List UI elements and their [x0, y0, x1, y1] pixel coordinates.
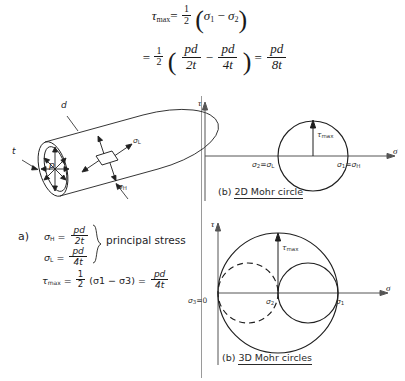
zero-value: 0 [203, 296, 208, 305]
fraction-pd-over-8t: pd 8t [267, 42, 286, 73]
figure-page: τmax= 1 2 (σ1 − σ2) = 1 2 ( pd 2t − pd 4 [0, 0, 405, 381]
fraction-denominator: 2 [154, 57, 163, 68]
curly-brace-icon [91, 224, 103, 264]
fraction-denominator: 2 [76, 280, 85, 289]
cylinder-bottom-edge [60, 169, 158, 196]
tau-axis [202, 102, 207, 201]
fraction-denominator: 4t [151, 280, 168, 290]
vessel-pressure-label: p [49, 160, 55, 170]
fraction-numerator: 1 [182, 4, 191, 16]
sigma-H-subscript: H [356, 163, 360, 169]
sigma-H-arrows [98, 136, 116, 181]
point-label-sigma1-sigmaH: σ1=σH [337, 160, 360, 169]
sigma-axis-label: σ [393, 146, 397, 156]
tau-max-subscript: max [287, 246, 299, 252]
pressure-vessel-sketch: d t p σL σH [8, 98, 198, 210]
tau-max-arrow [310, 120, 315, 156]
close-paren-2: ) [243, 48, 252, 77]
equals-sign-2: = [143, 50, 150, 65]
part-label-a: a) [18, 230, 29, 243]
handwritten-notes: a) σH = pd 2t σL = pd 4t principal stres… [18, 212, 198, 292]
equals-sign: = [56, 252, 64, 263]
chart-3d-mohr-circles: τ σ σ3=0 σ2 σ1 τmax (b) 3D Mohr circles [196, 215, 402, 379]
equals-sign: = [170, 8, 177, 23]
sigma-L-subscript: L [50, 256, 53, 263]
fraction-numerator: pd [69, 246, 86, 257]
annotation-tau-max-3d: τmax [282, 243, 299, 252]
point-label-sigma2-sigmaL: σ2=σL [252, 160, 274, 169]
equals-sign: = [58, 231, 66, 242]
equals-sign-2: = [138, 275, 146, 286]
sigma-L-subscript: L [271, 163, 274, 169]
sigma-difference-expression: (σ1 − σ3) [89, 275, 135, 286]
chart-2d-mohr-circle: τ σ σ2=σL σ1=σH τmax (b) 2D Mohr circle [196, 98, 402, 210]
caption-prefix: (b) [218, 186, 231, 197]
caption-2d-mohr-circle: (b) 2D Mohr circle [218, 186, 303, 197]
vessel-sigma-H-label: σH [118, 182, 127, 191]
open-paren: ( [195, 6, 204, 35]
equals-sign-3: = [255, 50, 262, 65]
note-sigma-L-equation: σL = pd 4t [44, 246, 89, 268]
fraction-pd-over-4t-2: pd 4t [151, 269, 168, 291]
sigma-axis [218, 290, 388, 295]
stress-element [96, 151, 118, 165]
close-paren: ) [238, 6, 247, 35]
principal-stress-label: principal stress [106, 234, 186, 246]
equation-block: τmax= 1 2 (σ1 − σ2) = 1 2 ( pd 2t − pd 4 [0, 4, 405, 77]
sigma-L-arrows [82, 144, 132, 172]
internal-pressure-arrows [41, 147, 69, 191]
caption-text: 2D Mohr circle [234, 186, 303, 199]
note-sigma-H-equation: σH = pd 2t [44, 225, 90, 247]
point-label-sigma2: σ2 [266, 297, 274, 306]
caption-prefix: (b) [222, 352, 235, 363]
sigma-axis-label: σ [386, 283, 390, 293]
sigma-H-subscript: H [123, 185, 127, 191]
caption-3d-mohr-circles: (b) 3D Mohr circles [222, 352, 312, 363]
sigma-L-subscript: L [138, 139, 141, 145]
tau-axis-label: τ [211, 219, 214, 229]
one-half-fraction: 1 2 [76, 270, 85, 289]
fraction-denominator: 2 [182, 16, 191, 27]
fraction-pd-over-4t: pd 4t [69, 246, 86, 268]
point-label-sigma3-zero: σ3=0 [188, 296, 207, 305]
tau-axis-label: τ [198, 98, 201, 108]
fraction-pd-over-4t: pd 4t [218, 42, 237, 73]
fraction-numerator: pd [71, 225, 88, 236]
vessel-diameter-label: d [61, 100, 67, 110]
annotation-tau-max-2d: τmax [317, 130, 334, 139]
fraction-pd-over-2t: pd 2t [71, 225, 88, 247]
fraction-numerator: pd [182, 42, 201, 58]
equals-sign: = [64, 275, 72, 286]
diameter-leader-line [67, 116, 78, 131]
minus-sign: − [217, 8, 224, 23]
fraction-denominator: 2t [182, 58, 201, 73]
caption-text: 3D Mohr circles [238, 352, 312, 365]
point-label-sigma1: σ1 [336, 297, 344, 306]
tau-subscript: max [157, 15, 171, 24]
vessel-sigma-L-label: σL [133, 136, 141, 145]
sigma-2-subscript: 2 [271, 300, 275, 306]
sigma-1-subscript: 1 [210, 15, 214, 24]
fraction-pd-over-2t: pd 2t [182, 42, 201, 73]
sigma-H-subscript: H [50, 235, 55, 242]
fraction-denominator: 4t [69, 257, 86, 267]
minus-sign-2: − [206, 50, 213, 65]
cylinder-top-edge [45, 115, 143, 142]
tau-subscript: max [48, 279, 61, 286]
vessel-thickness-label: t [12, 146, 16, 156]
sigma-axis [205, 153, 395, 158]
fraction-numerator: pd [151, 269, 168, 280]
one-half-fraction: 1 2 [182, 4, 191, 26]
sigma-1-subscript: 1 [341, 300, 345, 306]
fraction-numerator: pd [218, 42, 237, 58]
fraction-denominator: 4t [218, 58, 237, 73]
fraction-denominator: 8t [267, 58, 286, 73]
one-half-fraction-2: 1 2 [154, 46, 163, 68]
equation-tau-max-definition: τmax= 1 2 (σ1 − σ2) [0, 4, 405, 35]
open-paren-2: ( [168, 48, 177, 77]
thickness-leader-line [22, 160, 38, 170]
equation-tau-max-evaluated: = 1 2 ( pd 2t − pd 4t ) = pd 8t [26, 42, 405, 77]
note-tau-max-equation: τmax = 1 2 (σ1 − σ3) = pd 4t [42, 269, 170, 291]
fraction-numerator: pd [267, 42, 286, 58]
tau-max-subscript: max [322, 133, 334, 139]
